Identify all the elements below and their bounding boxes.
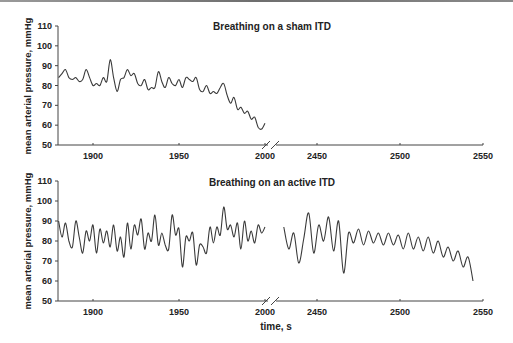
x-tick-label: 1950 [169,307,189,317]
y-tick-label: 90 [42,216,52,226]
y-tick-label: 70 [42,100,52,110]
pressure-trace [59,207,265,267]
y-axis-top: 5060708090100110 [37,21,58,150]
pressure-trace [59,60,265,130]
pressure-trace [284,213,473,281]
figure-canvas: Breathing on a sham ITD mean arterial pr… [0,0,513,343]
x-tick-label: 1900 [83,307,103,317]
x-axis-top: 190019502000245025002550 [58,141,493,161]
y-tick-label: 110 [37,21,52,31]
y-tick-label: 50 [42,140,52,150]
chart-active-itd: Breathing on an active ITD mean arterial… [22,172,493,332]
x-tick-label: 2450 [307,151,327,161]
chart-title-sham: Breathing on a sham ITD [213,21,331,32]
y-tick-label: 60 [42,276,52,286]
chart-sham-itd: Breathing on a sham ITD mean arterial pr… [22,17,493,161]
x-tick-label: 2550 [473,307,493,317]
x-tick-label: 2000 [255,151,275,161]
y-tick-label: 90 [42,61,52,71]
x-tick-label: 2550 [473,151,493,161]
y-tick-label: 70 [42,256,52,266]
chart-title-active: Breathing on an active ITD [209,177,335,188]
y-axis-label-top: mean arterial pressure, mmHg [22,17,33,154]
y-tick-label: 100 [37,41,52,51]
trace-active [59,207,473,281]
y-tick-label: 110 [37,176,52,186]
x-tick-label: 2450 [307,307,327,317]
x-tick-label: 2000 [255,307,275,317]
y-axis-label-bottom: mean arterial pressure, mmHg [22,172,33,309]
x-axis-label: time, s [260,321,292,332]
x-axis-bottom: 190019502000245025002550 [58,297,493,317]
y-tick-label: 80 [42,236,52,246]
x-tick-label: 2500 [390,307,410,317]
x-tick-label: 2500 [390,151,410,161]
y-axis-bottom: 5060708090100110 [37,176,58,306]
y-tick-label: 50 [42,296,52,306]
y-tick-label: 100 [37,196,52,206]
y-tick-label: 80 [42,81,52,91]
y-tick-label: 60 [42,120,52,130]
trace-sham [59,60,265,130]
x-tick-label: 1900 [83,151,103,161]
x-tick-label: 1950 [169,151,189,161]
